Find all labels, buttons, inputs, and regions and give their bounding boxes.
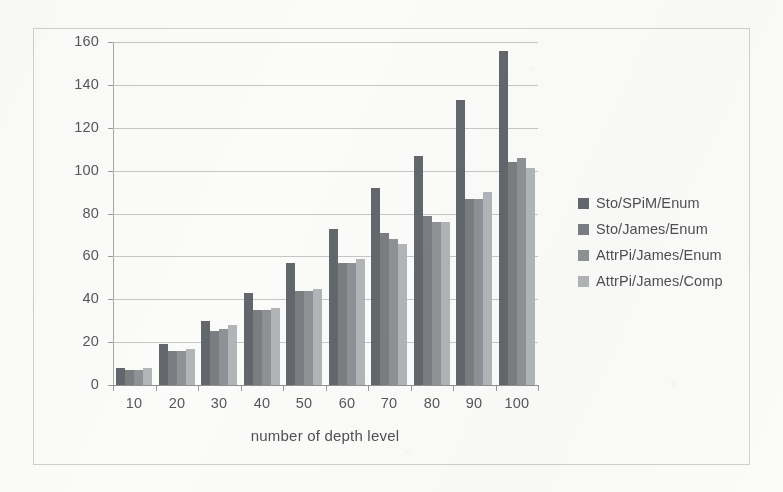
square-swatch-icon <box>578 250 589 261</box>
bar-group <box>329 42 365 385</box>
x-tick-label: 70 <box>368 395 410 411</box>
bar <box>177 351 186 385</box>
x-tick-label: 60 <box>326 395 368 411</box>
plot-area <box>113 42 538 385</box>
bar <box>432 222 441 385</box>
bar <box>517 158 526 385</box>
x-tick-mark <box>453 386 454 391</box>
y-tick-label: 120 <box>55 119 99 135</box>
x-tick-mark <box>368 386 369 391</box>
bar <box>414 156 423 385</box>
bar <box>304 291 313 385</box>
square-swatch-icon <box>578 198 589 209</box>
bar <box>456 100 465 385</box>
bar <box>499 51 508 385</box>
bar <box>526 168 535 385</box>
bar <box>329 229 338 385</box>
bar <box>262 310 271 385</box>
bar <box>186 349 195 385</box>
x-tick-label: 40 <box>241 395 283 411</box>
bar <box>116 368 125 385</box>
bar <box>143 368 152 385</box>
legend-item-label: AttrPi/James/Comp <box>596 273 723 289</box>
bar <box>356 259 365 385</box>
legend-item[interactable]: AttrPi/James/Comp <box>578 268 738 294</box>
bar <box>389 239 398 385</box>
square-swatch-icon <box>578 276 589 287</box>
y-tick-label: 80 <box>55 205 99 221</box>
y-tick-label: 20 <box>55 333 99 349</box>
bar <box>474 199 483 386</box>
x-tick-label: 50 <box>283 395 325 411</box>
bar <box>295 291 304 385</box>
bar-group <box>286 42 322 385</box>
bar <box>134 370 143 385</box>
legend-item-label: Sto/James/Enum <box>596 221 708 237</box>
bar <box>465 199 474 386</box>
legend-item[interactable]: AttrPi/James/Enum <box>578 242 738 268</box>
bar <box>253 310 262 385</box>
legend-item[interactable]: Sto/SPiM/Enum <box>578 190 738 216</box>
bar <box>210 331 219 385</box>
bar <box>347 263 356 385</box>
bar <box>244 293 253 385</box>
bar-group <box>201 42 237 385</box>
bar-group <box>456 42 492 385</box>
bar-group <box>499 42 535 385</box>
x-tick-label: 100 <box>496 395 538 411</box>
x-tick-label: 90 <box>453 395 495 411</box>
square-swatch-icon <box>578 224 589 235</box>
x-tick-label: 80 <box>411 395 453 411</box>
bar <box>201 321 210 385</box>
x-tick-mark <box>198 386 199 391</box>
bar <box>398 244 407 385</box>
x-tick-mark <box>156 386 157 391</box>
bar <box>338 263 347 385</box>
y-tick-label: 100 <box>55 162 99 178</box>
bar-group <box>244 42 280 385</box>
y-tick-label: 60 <box>55 247 99 263</box>
bar <box>125 370 134 385</box>
legend-item[interactable]: Sto/James/Enum <box>578 216 738 242</box>
bar <box>483 192 492 385</box>
bar <box>423 216 432 385</box>
bar <box>380 233 389 385</box>
y-tick-label: 40 <box>55 290 99 306</box>
y-tick-label: 140 <box>55 76 99 92</box>
legend-item-label: AttrPi/James/Enum <box>596 247 722 263</box>
x-tick-mark <box>241 386 242 391</box>
chart-legend: Sto/SPiM/EnumSto/James/EnumAttrPi/James/… <box>578 190 738 294</box>
bar-group <box>116 42 152 385</box>
x-axis-title: number of depth level <box>185 427 465 444</box>
y-tick-label: 0 <box>55 376 99 392</box>
x-tick-mark <box>113 386 114 391</box>
bar-group <box>371 42 407 385</box>
x-tick-mark <box>538 386 539 391</box>
x-tick-mark <box>411 386 412 391</box>
bar-group <box>414 42 450 385</box>
bar-group <box>159 42 195 385</box>
bar <box>441 222 450 385</box>
x-tick-mark <box>496 386 497 391</box>
chart-page: runtime in s 020406080100120140160 10203… <box>0 0 783 492</box>
bar <box>159 344 168 385</box>
x-tick-mark <box>283 386 284 391</box>
x-tick-label: 10 <box>113 395 155 411</box>
y-tick-label: 160 <box>55 33 99 49</box>
bar <box>313 289 322 385</box>
x-tick-label: 20 <box>156 395 198 411</box>
bar <box>286 263 295 385</box>
bar <box>228 325 237 385</box>
bar <box>219 329 228 385</box>
bar <box>271 308 280 385</box>
x-tick-mark <box>326 386 327 391</box>
bar <box>168 351 177 385</box>
bar <box>371 188 380 385</box>
legend-item-label: Sto/SPiM/Enum <box>596 195 700 211</box>
x-tick-label: 30 <box>198 395 240 411</box>
bar <box>508 162 517 385</box>
